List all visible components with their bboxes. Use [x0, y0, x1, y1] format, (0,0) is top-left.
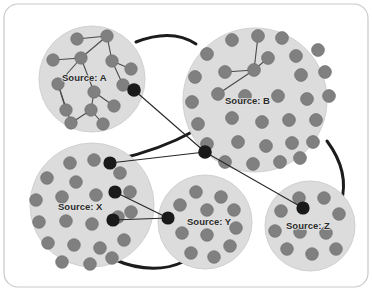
node[interactable] — [90, 189, 103, 202]
node[interactable] — [312, 44, 325, 57]
node[interactable] — [41, 172, 54, 185]
node[interactable] — [219, 66, 232, 79]
node[interactable] — [70, 176, 83, 189]
node[interactable] — [260, 140, 273, 153]
node[interactable] — [65, 117, 77, 129]
node[interactable] — [108, 100, 120, 112]
node[interactable] — [71, 33, 83, 45]
node[interactable] — [68, 239, 81, 252]
node[interactable] — [230, 222, 243, 235]
cluster-label-x: Source: X — [58, 201, 103, 212]
node[interactable] — [201, 204, 214, 217]
node[interactable] — [118, 234, 131, 247]
node[interactable] — [85, 104, 97, 116]
node[interactable] — [228, 204, 241, 217]
node[interactable] — [290, 50, 303, 63]
node[interactable] — [232, 136, 245, 149]
cluster-network-diagram: Source: ASource: BSource: XSource: YSour… — [0, 0, 372, 291]
node[interactable] — [330, 243, 343, 256]
node[interactable] — [60, 215, 73, 228]
node[interactable] — [106, 55, 118, 67]
node[interactable] — [215, 191, 228, 204]
node[interactable] — [201, 229, 214, 242]
node[interactable] — [192, 118, 205, 131]
node[interactable] — [275, 205, 288, 218]
node[interactable] — [295, 69, 308, 82]
node[interactable] — [333, 208, 346, 221]
node[interactable] — [283, 114, 296, 127]
node[interactable] — [307, 136, 320, 149]
bridge-node-x[interactable] — [106, 213, 119, 226]
node[interactable] — [186, 96, 199, 109]
node[interactable] — [174, 199, 187, 212]
cluster-label-z: Source: Z — [286, 220, 330, 231]
node[interactable] — [42, 237, 55, 250]
bridge-node-x[interactable] — [103, 156, 116, 169]
node[interactable] — [272, 90, 285, 103]
node[interactable] — [124, 186, 137, 199]
bridge-node-y[interactable] — [161, 211, 174, 224]
node[interactable] — [301, 93, 314, 106]
node[interactable] — [88, 154, 101, 167]
node[interactable] — [294, 152, 307, 165]
node[interactable] — [30, 194, 43, 207]
bridge-node-x[interactable] — [108, 185, 121, 198]
node[interactable] — [75, 52, 87, 64]
cluster-label-b: Source: B — [225, 95, 270, 106]
node[interactable] — [114, 167, 127, 180]
node[interactable] — [269, 225, 282, 238]
node[interactable] — [306, 248, 319, 261]
node[interactable] — [64, 157, 77, 170]
node[interactable] — [224, 240, 237, 253]
node[interactable] — [86, 218, 99, 231]
node[interactable] — [256, 116, 269, 129]
bridge-node-a[interactable] — [127, 83, 141, 97]
node[interactable] — [33, 216, 46, 229]
bridge-node-z[interactable] — [296, 201, 309, 214]
node[interactable] — [190, 186, 203, 199]
node[interactable] — [201, 48, 214, 61]
node[interactable] — [247, 158, 260, 171]
node[interactable] — [125, 206, 138, 219]
node[interactable] — [94, 242, 107, 255]
node[interactable] — [212, 88, 225, 101]
cluster-label-a: Source: A — [62, 72, 107, 83]
node[interactable] — [189, 71, 202, 84]
node[interactable] — [248, 64, 261, 77]
node[interactable] — [276, 32, 289, 45]
node[interactable] — [226, 112, 239, 125]
node[interactable] — [281, 243, 294, 256]
node[interactable] — [319, 66, 332, 79]
node[interactable] — [47, 54, 59, 66]
node[interactable] — [88, 86, 100, 98]
node[interactable] — [176, 227, 189, 240]
node[interactable] — [286, 137, 299, 150]
node[interactable] — [274, 156, 287, 169]
diagram-canvas: Source: ASource: BSource: XSource: YSour… — [0, 0, 372, 291]
node[interactable] — [101, 30, 113, 42]
node[interactable] — [252, 30, 265, 43]
node[interactable] — [185, 247, 198, 260]
cluster-label-y: Source: Y — [187, 216, 232, 227]
node[interactable] — [318, 192, 331, 205]
node[interactable] — [56, 256, 69, 269]
bridge-node-b[interactable] — [198, 145, 212, 159]
node[interactable] — [106, 252, 119, 265]
node[interactable] — [84, 258, 97, 271]
node[interactable] — [323, 90, 336, 103]
node[interactable] — [208, 251, 221, 264]
node[interactable] — [310, 114, 323, 127]
node[interactable] — [125, 63, 137, 75]
node[interactable] — [226, 34, 239, 47]
node[interactable] — [262, 52, 275, 65]
node[interactable] — [97, 118, 109, 130]
node[interactable] — [60, 104, 72, 116]
